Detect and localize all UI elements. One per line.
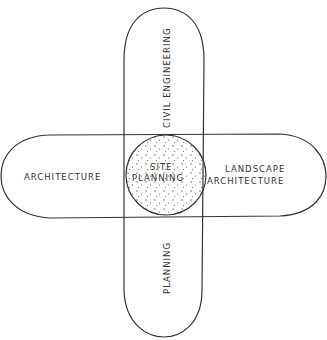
civil-engineering-label: CIVIL ENGINEERING (162, 28, 172, 128)
landscape-label-line2: ARCHITECTURE (207, 176, 284, 186)
planning-label: PLANNING (162, 242, 172, 294)
planning-center-label: PLANNING (132, 173, 184, 183)
diagram-canvas: CIVIL ENGINEERING ARCHITECTURE LANDSCAPE… (0, 0, 327, 340)
architecture-label: ARCHITECTURE (24, 172, 101, 182)
landscape-label-line1: LANDSCAPE (225, 164, 285, 174)
site-label: SITE (150, 162, 172, 172)
